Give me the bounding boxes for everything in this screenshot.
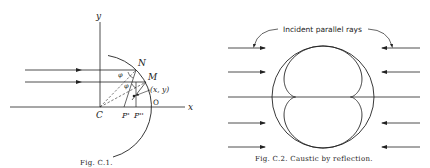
angle-arc-1 <box>128 72 133 78</box>
x-axis-label: x <box>188 102 193 112</box>
arrow-icon <box>381 46 387 50</box>
arrow-icon <box>260 46 266 50</box>
label-m: M <box>147 72 158 82</box>
fig-c2: Incident parallel rays Fig. C.2. Caustic… <box>228 25 420 163</box>
label-angle-2: φ <box>124 82 129 90</box>
caption-fig-c1: Fig. C.1. <box>80 159 113 167</box>
label-origin: O <box>153 98 159 107</box>
arrow-icon <box>260 70 266 74</box>
arrow-icon <box>76 68 82 72</box>
label-c: C <box>96 110 103 120</box>
mirror-arc-main <box>108 56 151 158</box>
reflected-ray-2 <box>132 82 146 100</box>
y-axis-label: y <box>95 11 102 21</box>
annotation-incident-rays: Incident parallel rays <box>283 25 362 34</box>
label-n: N <box>137 58 147 68</box>
label-p1: P' <box>121 111 130 120</box>
caption-fig-c2: Fig. C.2. Caustic by reflection. <box>255 155 373 163</box>
arrow-icon <box>260 121 266 125</box>
leader-right <box>368 29 392 46</box>
arrow-icon <box>381 70 387 74</box>
arrow-icon <box>260 145 266 149</box>
fig-c1: y x N M (x, y) O C P' P'' φ φ Fig. C.1. <box>10 11 193 167</box>
leader-left <box>254 29 278 46</box>
angle-arc-2 <box>132 84 136 88</box>
label-angle-1: φ <box>118 71 123 79</box>
figure-canvas: y x N M (x, y) O C P' P'' φ φ Fig. C.1. <box>0 0 430 168</box>
label-p2: P'' <box>133 111 144 120</box>
arrow-icon <box>381 121 387 125</box>
arrow-icon <box>76 80 82 84</box>
caustic-point <box>133 95 136 98</box>
label-coord: (x, y) <box>150 85 169 94</box>
arrow-icon <box>381 145 387 149</box>
